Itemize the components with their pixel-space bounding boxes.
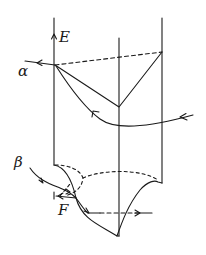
upper-v-lines bbox=[55, 52, 162, 107]
label-beta: β bbox=[14, 155, 23, 170]
arrow-downright-icon bbox=[39, 178, 43, 183]
upper-dashed-tie-line bbox=[55, 52, 162, 65]
lower-dashed-diagonal bbox=[60, 184, 70, 196]
lower-cusp-curve bbox=[54, 165, 162, 236]
energy-diagram: E α β F bbox=[0, 0, 206, 255]
lower-dashed-arc-right bbox=[83, 172, 158, 181]
label-alpha: α bbox=[18, 64, 28, 79]
upper-curved-path bbox=[56, 66, 193, 126]
label-e: E bbox=[59, 30, 70, 45]
label-f: F bbox=[58, 203, 68, 218]
diagram-canvas bbox=[0, 0, 206, 255]
